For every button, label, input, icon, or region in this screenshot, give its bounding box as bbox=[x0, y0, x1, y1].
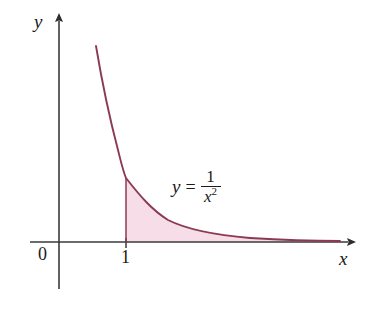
equation-fraction: 1 x2 bbox=[201, 168, 221, 205]
x-axis-label: x bbox=[339, 249, 347, 268]
origin-label: 0 bbox=[38, 245, 47, 263]
fraction-denominator: x2 bbox=[201, 187, 220, 205]
denominator-exponent: 2 bbox=[212, 185, 218, 197]
fraction-numerator: 1 bbox=[203, 168, 218, 186]
x-tick-label-one: 1 bbox=[121, 248, 130, 266]
shaded-area-region bbox=[126, 178, 340, 242]
equation-annotation: y = 1 x2 bbox=[172, 168, 221, 205]
equation-equals-sign: = bbox=[184, 178, 196, 196]
denominator-base: x bbox=[204, 187, 212, 206]
equation-lhs: y bbox=[172, 177, 180, 196]
y-axis-label: y bbox=[34, 12, 42, 31]
graph-svg bbox=[0, 0, 377, 314]
figure-canvas: y x 0 1 y = 1 x2 bbox=[0, 0, 377, 314]
